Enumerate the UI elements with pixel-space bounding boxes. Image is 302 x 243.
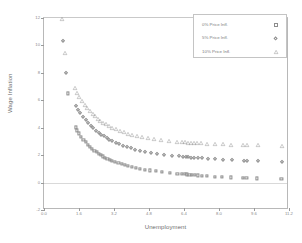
data-point [107,137,112,142]
data-point [124,145,129,150]
data-point [60,17,64,21]
data-point [280,178,283,181]
data-point [143,149,148,154]
data-point [106,157,109,160]
data-point [200,174,203,177]
data-point [229,158,234,163]
data-point [85,106,89,110]
data-point [245,176,248,179]
data-point [107,124,111,128]
legend-marker-diamond [273,36,279,42]
data-point [152,137,156,141]
data-point [63,51,67,55]
legend-item-label: 5% Price Infl. [202,36,228,40]
data-point [117,142,122,147]
chart-root: 121086420-2 0.01.63.24.86.48.09.611.2 Un… [0,0,302,243]
legend-item-label: 0% Price Infl. [202,23,228,27]
data-point [245,159,250,164]
data-point [76,129,79,132]
data-point [180,172,183,175]
data-point [108,158,111,161]
data-point [110,139,115,144]
data-point [167,139,171,143]
data-point [149,169,152,172]
y-axis-title: Wage Inflation [7,73,13,113]
x-axis-tick-label: 3.2 [111,212,117,216]
data-point [205,157,210,162]
data-point [180,155,185,160]
y-axis-tick-label: 4 [38,126,40,130]
data-point [77,95,81,99]
data-point [241,158,246,163]
y-axis-tick-label: 2 [38,153,40,157]
y-axis-tick [41,183,44,184]
data-point [118,129,122,133]
data-point [162,152,167,157]
data-point [176,154,181,159]
data-point [88,109,92,113]
legend-item[interactable]: 10% Price Infl. [194,45,286,59]
data-point [82,138,85,141]
data-point [155,152,160,157]
data-point [66,92,69,95]
data-point [128,146,133,151]
data-point [127,164,130,167]
data-point [73,104,78,109]
data-point [192,141,196,145]
data-point [75,91,79,95]
data-point [213,157,218,162]
legend-item[interactable]: 5% Price Infl. [194,32,286,46]
y-axis-tick [41,155,44,156]
data-point [83,118,88,123]
data-point [114,127,118,131]
data-point [221,175,224,178]
data-point [89,124,94,129]
y-axis-tick-label: 12 [35,16,40,20]
data-point [90,112,94,116]
legend-item[interactable]: 0% Price Infl. [194,18,286,32]
data-point [61,38,66,43]
data-point [96,117,100,121]
data-point [94,128,99,133]
data-point [110,126,114,130]
data-point [213,175,216,178]
data-point [256,159,261,164]
legend-marker-square [273,22,279,28]
data-point [146,136,150,140]
data-point [183,155,188,160]
data-point [120,143,125,148]
data-point [78,111,83,116]
y-axis-tick-label: 6 [38,98,40,102]
data-point [99,132,104,137]
data-point [188,173,191,176]
data-point [74,126,77,129]
x-axis-title: Unemployment [43,224,288,230]
data-point [197,174,200,177]
data-point [244,143,248,147]
data-point [104,156,107,159]
y-axis-tick [41,45,44,46]
y-axis-tick [41,128,44,129]
data-point [221,157,226,162]
data-point [199,156,204,161]
data-point [98,119,102,123]
data-point [280,160,285,165]
legend: 0% Price Infl.5% Price Infl.10% Price In… [193,14,287,58]
data-point [77,132,80,135]
data-point [148,151,153,156]
data-point [193,174,196,177]
x-axis-tick-label: 9.6 [251,212,257,216]
data-point [139,167,142,170]
data-point [110,159,113,162]
data-point [143,168,146,171]
y-axis-tick [41,18,44,19]
data-point [76,107,81,112]
data-point [195,141,199,145]
data-point [83,103,87,107]
data-point [86,121,91,126]
data-point [81,114,86,119]
data-point [93,149,96,152]
data-point [134,166,137,169]
x-axis-tick-label: 8.0 [216,212,222,216]
data-point [130,133,134,137]
